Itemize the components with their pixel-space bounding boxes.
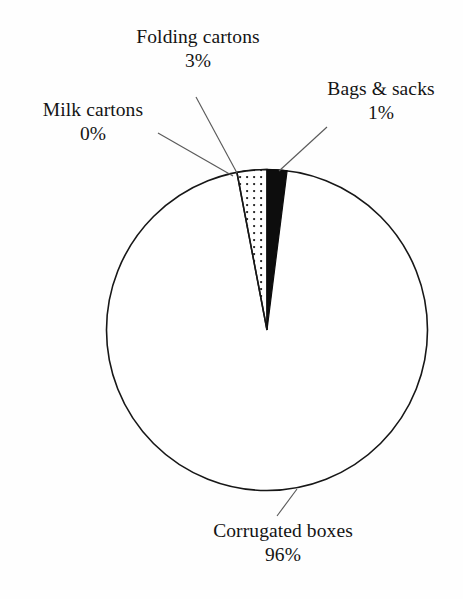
pie-label-milk-cartons-percent: 0% (18, 122, 168, 146)
pie-label-bags-and-sacks-name: Bags & sacks (310, 77, 452, 101)
pie-label-folding-cartons-name: Folding cartons (113, 25, 283, 49)
pie-label-corrugated-boxes-name: Corrugated boxes (168, 519, 398, 543)
pie-label-bags-and-sacks: Bags & sacks 1% (310, 77, 452, 125)
pie-label-milk-cartons-name: Milk cartons (18, 98, 168, 122)
leader-line-folding-cartons (196, 97, 237, 173)
pie-label-corrugated-boxes: Corrugated boxes 96% (168, 519, 398, 567)
pie-label-folding-cartons: Folding cartons 3% (113, 25, 283, 73)
pie-label-corrugated-boxes-percent: 96% (168, 543, 398, 567)
pie-chart-figure: Folding cartons 3% Bags & sacks 1% Milk … (0, 0, 463, 599)
leader-line-corrugated-boxes (277, 489, 297, 516)
pie-label-bags-and-sacks-percent: 1% (310, 101, 452, 125)
leader-line-bags-and-sacks (279, 127, 327, 171)
leader-line-milk-cartons (158, 133, 233, 176)
pie-label-folding-cartons-percent: 3% (113, 49, 283, 73)
pie-label-milk-cartons: Milk cartons 0% (18, 98, 168, 146)
